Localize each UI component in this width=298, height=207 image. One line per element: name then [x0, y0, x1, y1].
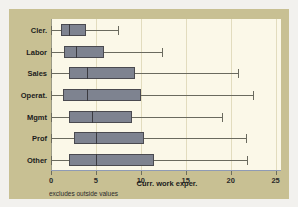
chart-frame: Cler.LaborSalesOperat.MgmtProfOther 0510…	[9, 9, 289, 199]
box-rect	[69, 111, 132, 123]
whisker-cap-low	[51, 134, 52, 143]
x-tick-label-0: 0	[49, 176, 53, 185]
whisker-cap-low	[51, 113, 52, 122]
box-rect	[64, 46, 104, 58]
x-tick-mark-25	[276, 171, 277, 175]
whisker-cap-low	[51, 26, 52, 35]
whisker-cap-high	[222, 113, 223, 122]
whisker-cap-low	[51, 48, 52, 57]
median-line	[92, 111, 93, 123]
median-line	[76, 46, 77, 58]
median-line	[96, 154, 97, 166]
whisker-cap-low	[51, 69, 52, 78]
x-tick-label-25: 25	[271, 176, 279, 185]
y-axis-label-prof: Prof	[32, 134, 47, 143]
whisker-cap-high	[118, 26, 119, 35]
whisker-cap-high	[247, 156, 248, 165]
y-axis-label-labor: Labor	[26, 47, 47, 56]
x-axis-line	[51, 170, 281, 171]
median-line	[87, 89, 88, 101]
box-rect	[69, 154, 154, 166]
box-rect	[61, 24, 86, 36]
median-line	[96, 132, 97, 144]
plot-area	[51, 19, 281, 171]
x-tick-label-20: 20	[227, 176, 235, 185]
median-line	[69, 24, 70, 36]
chart-footnote: excludes outside values	[49, 190, 118, 197]
y-axis-label-other: Other	[27, 156, 47, 165]
whisker-cap-high	[238, 69, 239, 78]
x-axis-title: Curr. work exper.	[137, 179, 198, 188]
whisker-cap-high	[253, 91, 254, 100]
median-line	[87, 67, 88, 79]
gridline-25	[276, 19, 277, 171]
whisker-cap-low	[51, 156, 52, 165]
x-tick-mark-0	[51, 171, 52, 175]
x-tick-mark-20	[231, 171, 232, 175]
y-axis-label-mgmt: Mgmt	[27, 112, 47, 121]
x-tick-mark-5	[96, 171, 97, 175]
box-rect	[74, 132, 143, 144]
whisker-cap-high	[162, 48, 163, 57]
box-rect	[63, 89, 141, 101]
whisker-cap-low	[51, 91, 52, 100]
y-axis-label-sales: Sales	[27, 69, 47, 78]
y-axis-label-operat: Operat.	[21, 91, 47, 100]
x-tick-label-5: 5	[94, 176, 98, 185]
x-tick-mark-10	[141, 171, 142, 175]
x-tick-mark-15	[186, 171, 187, 175]
y-axis-label-cler: Cler.	[31, 25, 47, 34]
box-rect	[69, 67, 135, 79]
whisker-cap-high	[246, 134, 247, 143]
